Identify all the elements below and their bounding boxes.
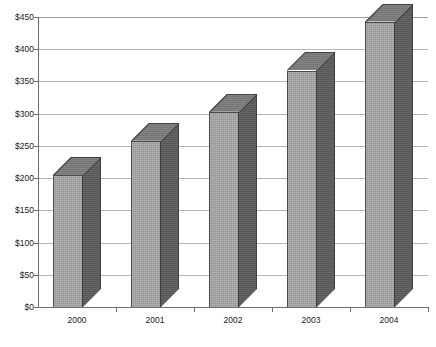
x-axis-tick-label: 2002 xyxy=(224,316,243,325)
x-axis-tick-label: 2000 xyxy=(68,316,87,325)
x-axis-tick-labels: 20002001200220032004 xyxy=(0,0,436,347)
x-axis-tick-label: 2004 xyxy=(380,316,399,325)
x-axis-tick-label: 2001 xyxy=(146,316,165,325)
bar-chart: $0$50$100$150$200$250$300$350$400$450 20… xyxy=(0,0,436,347)
x-axis-tick-label: 2003 xyxy=(302,316,321,325)
